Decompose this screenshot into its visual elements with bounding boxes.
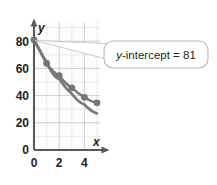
y-axis-label: y (37, 21, 46, 35)
data-point (81, 94, 88, 101)
data-point (56, 72, 63, 79)
y-tick-label-20: 20 (16, 116, 30, 130)
callout-label: y-intercept = 81 (115, 49, 196, 61)
x-tick-label-0: 0 (31, 156, 38, 170)
y-tick-label-60: 60 (16, 62, 30, 76)
data-point (43, 60, 50, 67)
data-point (68, 84, 75, 91)
data-point (31, 36, 38, 43)
y-tick-label-80: 80 (16, 35, 30, 49)
x-tick-label-4: 4 (81, 156, 88, 170)
x-tick-label-2: 2 (56, 156, 63, 170)
exponential-decay-chart: y x 80 60 40 20 0 0 2 4 y-intercept = 81 (0, 0, 217, 185)
x-axis-label: x (92, 135, 101, 149)
data-point (94, 99, 101, 106)
callout-label-rest: -intercept = 81 (122, 49, 196, 61)
y-tick-label-0: 0 (22, 143, 29, 157)
y-tick-label-40: 40 (16, 89, 30, 103)
